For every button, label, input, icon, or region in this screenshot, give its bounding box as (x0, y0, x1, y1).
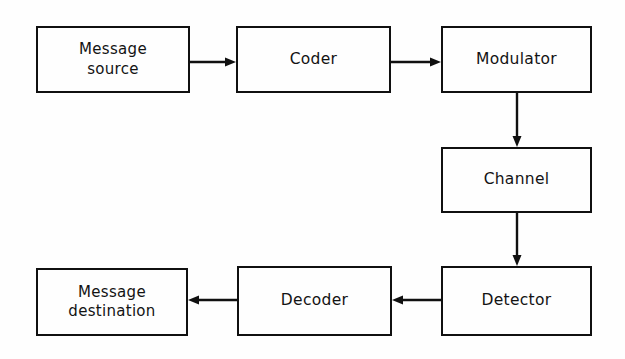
arrow-detector-to-decoder (392, 296, 441, 305)
node-label-message-source: Message source (79, 40, 147, 79)
node-modulator[interactable]: Modulator (441, 26, 592, 93)
node-label-modulator: Modulator (476, 50, 557, 70)
node-message-source[interactable]: Message source (36, 26, 190, 93)
node-label-channel: Channel (484, 170, 550, 190)
node-label-coder: Coder (290, 50, 338, 70)
node-coder[interactable]: Coder (236, 26, 391, 93)
node-label-detector: Detector (482, 291, 552, 311)
node-message-destination[interactable]: Message destination (36, 268, 188, 336)
node-label-message-destination: Message destination (68, 283, 155, 322)
arrow-decoder-to-destination (188, 296, 237, 305)
node-detector[interactable]: Detector (441, 266, 592, 336)
diagram-canvas: Message source Coder Modulator Channel D… (0, 0, 625, 359)
arrow-source-to-coder (190, 58, 236, 67)
arrow-modulator-to-channel (513, 93, 522, 147)
node-decoder[interactable]: Decoder (237, 266, 392, 336)
node-channel[interactable]: Channel (441, 147, 592, 213)
node-label-decoder: Decoder (281, 291, 348, 311)
arrow-coder-to-modulator (391, 58, 441, 67)
arrow-channel-to-detector (513, 213, 522, 266)
